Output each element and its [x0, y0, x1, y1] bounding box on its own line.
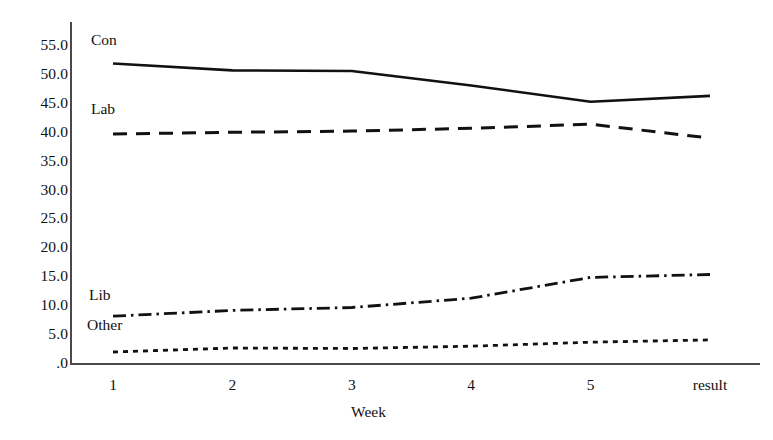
- series-line-lib: [113, 275, 710, 317]
- series-line-lab: [113, 124, 710, 138]
- x-axis-title: Week: [0, 403, 773, 421]
- plot-area: [0, 0, 773, 440]
- chart-container: 55.050.045.040.035.030.025.020.015.010.0…: [0, 0, 773, 440]
- series-line-other: [113, 340, 710, 352]
- series-line-con: [113, 64, 710, 102]
- x-axis-title-text: Week: [351, 403, 386, 420]
